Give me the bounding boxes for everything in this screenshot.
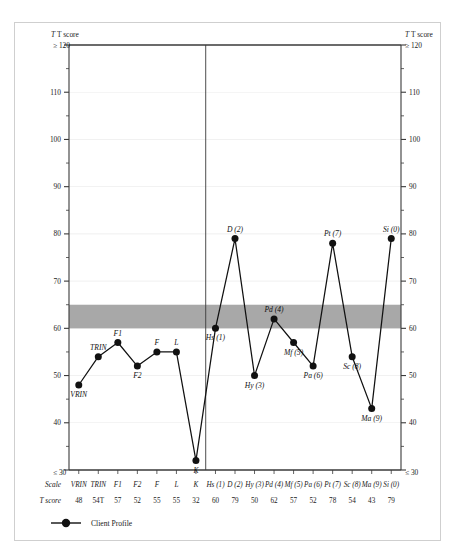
table-cell-scale-Sc8: Sc (8) [344,481,362,489]
y-axis-tick-labels: 110110100100909080807070606050504040 [50,88,420,428]
point-label-F: F [154,338,160,347]
y-axis-title-right-text: T [405,30,410,39]
y-top-label-right: ≥ 120 [405,41,422,50]
data-point-F2[interactable] [134,363,141,370]
y-tick-label-right-70: 70 [409,277,417,286]
data-point-K[interactable] [192,457,199,464]
table-cell-scale-Pa6: Pa (6) [303,481,323,489]
table-cell-score-F2: 52 [134,497,142,505]
y-tick-label-right-60: 60 [409,324,417,333]
y-bottom-label-left: ≤ 30 [53,468,67,477]
point-label-VRIN: VRIN [70,390,88,399]
data-point-Hy3[interactable] [251,372,258,379]
y-tick-label-left-110: 110 [50,88,61,97]
table-cell-score-L: 55 [173,497,181,505]
y-axis-title-left-sub: T score [57,30,80,39]
y-tick-label-right-90: 90 [409,182,417,191]
data-point-Mf5[interactable] [290,339,297,346]
axis-lines [69,45,401,470]
point-label-Pt7: Pt (7) [323,229,342,238]
y-axis-title-right-sub: T score [411,30,434,39]
table-cell-scale-F2: F2 [132,481,141,489]
data-point-Ma9[interactable] [368,405,375,412]
table-cell-scale-Mf5: Mf (5) [284,481,304,489]
table-cell-score-Pt7: 78 [329,497,337,505]
data-point-Sc8[interactable] [349,353,356,360]
point-label-TRIN: TRIN [90,343,107,352]
score-table: ScaleT scoreVRIN48TRIN54TF157F252F55L55K… [39,480,399,505]
y-tick-label-left-40: 40 [54,418,62,427]
point-label-Ma9: Ma (9) [360,414,382,423]
legend-marker-icon [62,519,70,527]
table-cell-scale-L: L [173,481,178,489]
table-cell-score-D2: 79 [231,497,239,505]
y-tick-label-left-100: 100 [50,135,61,144]
chart-legend: Client Profile [51,519,133,528]
data-point-L[interactable] [173,348,180,355]
point-label-Pa6: Pa (6) [303,371,324,380]
y-tick-label-left-90: 90 [54,182,62,191]
y-top-label-left: ≥ 120 [53,41,70,50]
table-cell-score-Mf5: 57 [290,497,298,505]
table-cell-scale-F: F [154,481,160,489]
gridlines [69,92,401,423]
table-cell-score-Pa6: 52 [310,497,318,505]
table-cell-scale-Si0: Si (0) [383,481,399,489]
table-cell-scale-Pd4: Pd (4) [264,481,284,489]
y-bottom-label-right: ≤ 30 [405,468,419,477]
table-row-header-tscore: T score [39,496,61,505]
table-cell-score-Hy3: 50 [251,497,259,505]
profile-figure-frame: 110110100100909080807070606050504040 T T… [14,22,441,541]
data-point-F1[interactable] [114,339,121,346]
y-tick-label-right-50: 50 [409,371,417,380]
tick-marks [64,45,406,474]
y-tick-label-right-80: 80 [409,229,417,238]
point-label-Pd4: Pd (4) [263,305,284,314]
table-cell-score-Si0: 79 [388,497,396,505]
data-point-F[interactable] [153,348,160,355]
table-cell-scale-K: K [193,481,200,489]
table-cell-scale-F1: F1 [113,481,122,489]
point-label-Si0: Si (0) [383,225,400,234]
client-profile-line [79,239,391,461]
data-point-TRIN[interactable] [95,353,102,360]
table-cell-scale-Hs1: Hs (1) [205,481,225,489]
point-label-Sc8: Sc (8) [343,362,361,371]
table-cell-score-Hs1: 60 [212,497,220,505]
table-cell-score-TRIN: 54T [93,497,105,505]
data-point-Pt7[interactable] [329,240,336,247]
y-axis-title-left: T T score [51,30,80,39]
table-cell-score-K: 32 [192,497,200,505]
data-point-Si0[interactable] [388,235,395,242]
table-cell-scale-D2: D (2) [226,481,243,489]
mmpi-profile-chart: 110110100100909080807070606050504040 T T… [15,23,442,542]
y-tick-label-right-40: 40 [409,418,417,427]
legend-label-client-profile: Client Profile [91,519,133,528]
data-point-Hs1[interactable] [212,325,219,332]
point-label-K: K [192,466,199,475]
y-tick-label-right-110: 110 [409,88,420,97]
point-label-F2: F2 [132,371,142,380]
table-row-header-scale: Scale [45,480,62,489]
shaded-band-region [69,305,401,329]
table-cell-score-Pd4: 62 [270,497,278,505]
table-cell-scale-VRIN: VRIN [71,481,88,489]
table-cell-scale-Ma9: Ma (9) [361,481,382,489]
point-label-Hs1: Hs (1) [205,333,226,342]
point-label-Mf5: Mf (5) [283,348,304,357]
y-tick-label-left-60: 60 [54,324,62,333]
data-point-Pd4[interactable] [271,315,278,322]
point-label-Hy3: Hy (3) [244,381,265,390]
table-cell-scale-Pt7: Pt (7) [323,481,341,489]
y-tick-label-left-50: 50 [54,371,62,380]
data-point-D2[interactable] [232,235,239,242]
point-label-F1: F1 [113,329,122,338]
table-cell-scale-TRIN: TRIN [91,481,108,489]
y-tick-label-left-70: 70 [54,277,62,286]
data-point-Pa6[interactable] [310,363,317,370]
table-cell-score-VRIN: 48 [75,497,83,505]
table-cell-score-F: 55 [153,497,161,505]
table-cell-score-F1: 57 [114,497,122,505]
data-point-VRIN[interactable] [75,382,82,389]
table-cell-score-Sc8: 54 [349,497,357,505]
